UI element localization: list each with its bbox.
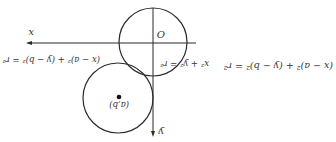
circle-equation-diagram: x y O (a,b) x² + y² = r² (x − a)² + (y −… [0,0,336,142]
general-circle-equation: (x − a)² + (y − b)² = r² [224,61,333,72]
y-axis-arrow-icon [151,131,155,137]
shifted-circle-equation: (x − a)² + (y − b)² = r² [2,55,100,65]
origin-label: O [157,29,165,40]
center-point [117,95,122,100]
y-axis-label: y [158,127,165,138]
x-axis-arrow-icon [26,41,32,45]
center-label: (a,b) [109,100,129,110]
origin-circle-equation: x² + y² = r² [159,59,209,69]
x-axis-label: x [28,28,34,39]
